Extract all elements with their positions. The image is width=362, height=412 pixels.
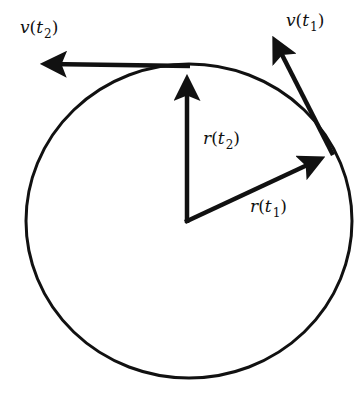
label-symbol: r	[203, 128, 211, 148]
label-r-t1: r(t1)	[250, 198, 287, 215]
velocity-vector-v-t1	[276, 43, 333, 155]
label-symbol: r	[250, 196, 258, 216]
label-v-t1: v(t1)	[286, 12, 324, 29]
velocity-vector-v-t2	[48, 64, 190, 66]
label-v-t2: v(t2)	[20, 19, 58, 36]
circular-motion-diagram	[0, 0, 362, 412]
label-symbol: v	[286, 10, 296, 30]
label-r-t2: r(t2)	[203, 130, 240, 147]
label-symbol: v	[20, 17, 30, 37]
